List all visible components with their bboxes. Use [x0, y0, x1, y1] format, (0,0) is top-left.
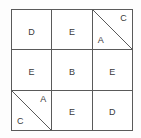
grid-cell-r2c2[interactable]: B [52, 50, 92, 90]
cell-label-r3c1-upper-right: A [40, 95, 46, 104]
letter-grid-container: D E A C E [11, 9, 129, 127]
cell-label-r3c2: E [69, 107, 75, 117]
table-row: E B E [12, 50, 133, 90]
table-row: C A E D [12, 90, 133, 130]
grid-cell-r1c3[interactable]: A C [92, 10, 132, 50]
cell-label-r1c2: E [69, 27, 75, 37]
cell-label-r2c2: B [69, 67, 75, 77]
grid-cell-r3c3[interactable]: D [92, 90, 132, 130]
split-cell-r3c1: C A [12, 91, 51, 130]
letter-grid: D E A C E [11, 9, 133, 131]
grid-cell-r1c1[interactable]: D [12, 10, 52, 50]
cell-label-r3c1-lower-left: C [17, 117, 24, 126]
table-row: D E A C [12, 10, 133, 50]
split-cell-r1c3: A C [93, 10, 132, 49]
grid-cell-r1c2[interactable]: E [52, 10, 92, 50]
grid-cell-r2c1[interactable]: E [12, 50, 52, 90]
grid-cell-r3c2[interactable]: E [52, 90, 92, 130]
cell-label-r2c1: E [29, 67, 35, 77]
grid-cell-r2c3[interactable]: E [92, 50, 132, 90]
grid-cell-r3c1[interactable]: C A [12, 90, 52, 130]
cell-label-r2c3: E [109, 67, 115, 77]
cell-label-r1c3-upper-right: C [120, 14, 127, 23]
cell-label-r1c1: D [28, 27, 35, 37]
cell-label-r3c3: D [109, 107, 116, 117]
cell-label-r1c3-lower-left: A [98, 36, 104, 45]
